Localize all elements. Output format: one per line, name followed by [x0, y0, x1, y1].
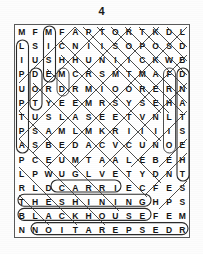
grid-cell[interactable]: R — [42, 82, 55, 96]
grid-cell[interactable]: M — [15, 25, 28, 39]
grid-cell[interactable]: S — [28, 124, 41, 138]
grid-cell[interactable]: A — [149, 68, 162, 82]
grid-cell[interactable]: U — [82, 53, 95, 67]
grid-cell[interactable]: I — [15, 53, 28, 67]
grid-cell[interactable]: S — [162, 39, 175, 53]
grid-cell[interactable]: U — [55, 153, 68, 167]
grid-cell[interactable]: K — [69, 209, 82, 223]
grid-cell[interactable]: H — [55, 53, 68, 67]
grid-cell[interactable]: R — [15, 181, 28, 195]
grid-cell[interactable]: L — [176, 25, 189, 39]
grid-cell[interactable]: E — [136, 209, 149, 223]
grid-cell[interactable]: D — [162, 25, 175, 39]
grid-cell[interactable]: P — [15, 68, 28, 82]
grid-cell[interactable]: A — [42, 124, 55, 138]
grid-cell[interactable]: D — [149, 167, 162, 181]
grid-cell[interactable]: U — [28, 110, 41, 124]
grid-cell[interactable]: T — [15, 110, 28, 124]
grid-cell[interactable]: N — [95, 53, 108, 67]
grid-cell[interactable]: V — [109, 139, 122, 153]
grid-cell[interactable]: A — [15, 139, 28, 153]
grid-cell[interactable]: N — [162, 167, 175, 181]
grid-cell[interactable]: L — [122, 153, 135, 167]
grid-cell[interactable]: Y — [42, 96, 55, 110]
grid-cell[interactable]: R — [69, 82, 82, 96]
grid-cell[interactable]: D — [28, 68, 41, 82]
grid-cell[interactable]: P — [15, 124, 28, 138]
grid-cell[interactable]: L — [162, 110, 175, 124]
grid-cell[interactable]: A — [95, 153, 108, 167]
grid-cell[interactable]: T — [176, 110, 189, 124]
grid-cell[interactable]: T — [69, 224, 82, 238]
grid-cell[interactable]: N — [149, 110, 162, 124]
grid-cell[interactable]: N — [149, 139, 162, 153]
grid-cell[interactable]: F — [55, 25, 68, 39]
grid-cell[interactable]: C — [28, 153, 41, 167]
grid-cell[interactable]: N — [69, 39, 82, 53]
grid-cell[interactable]: F — [149, 181, 162, 195]
grid-cell[interactable]: M — [42, 25, 55, 39]
grid-cell[interactable]: R — [136, 82, 149, 96]
grid-cell[interactable]: I — [55, 224, 68, 238]
grid-cell[interactable]: M — [82, 82, 95, 96]
grid-cell[interactable]: D — [42, 181, 55, 195]
grid-cell[interactable]: H — [82, 209, 95, 223]
grid-cell[interactable]: R — [95, 224, 108, 238]
grid-cell[interactable]: P — [15, 153, 28, 167]
grid-cell[interactable]: T — [28, 96, 41, 110]
grid-cell[interactable]: E — [42, 68, 55, 82]
grid-cell[interactable]: E — [136, 153, 149, 167]
grid-cell[interactable]: A — [176, 96, 189, 110]
grid-cell[interactable]: G — [69, 167, 82, 181]
grid-cell[interactable]: I — [122, 53, 135, 67]
grid-cell[interactable]: N — [95, 195, 108, 209]
grid-cell[interactable]: S — [176, 181, 189, 195]
grid-cell[interactable]: O — [95, 209, 108, 223]
grid-cell[interactable]: E — [122, 181, 135, 195]
grid-cell[interactable]: H — [149, 195, 162, 209]
grid-cell[interactable]: S — [122, 209, 135, 223]
grid-cell[interactable]: M — [82, 96, 95, 110]
grid-cell[interactable]: U — [136, 139, 149, 153]
grid-cell[interactable]: E — [149, 96, 162, 110]
grid-cell[interactable]: E — [42, 153, 55, 167]
grid-cell[interactable]: T — [122, 68, 135, 82]
grid-cell[interactable]: I — [149, 124, 162, 138]
grid-cell[interactable]: T — [95, 25, 108, 39]
grid-cell[interactable]: N — [122, 195, 135, 209]
grid-cell[interactable]: A — [42, 209, 55, 223]
grid-cell[interactable]: S — [176, 124, 189, 138]
grid-cell[interactable]: U — [109, 209, 122, 223]
grid-cell[interactable]: W — [42, 167, 55, 181]
grid-cell[interactable]: T — [122, 110, 135, 124]
grid-cell[interactable]: P — [28, 167, 41, 181]
grid-cell[interactable]: F — [162, 68, 175, 82]
grid-cell[interactable]: B — [176, 53, 189, 67]
grid-cell[interactable]: E — [109, 110, 122, 124]
grid-cell[interactable]: D — [176, 68, 189, 82]
grid-cell[interactable]: V — [136, 110, 149, 124]
grid-cell[interactable]: L — [28, 181, 41, 195]
grid-cell[interactable]: I — [109, 195, 122, 209]
word-search-grid[interactable]: MFMFAPTORTKDLLSICNIISOPOSDIUSHHUNIICKWBP… — [14, 24, 190, 238]
grid-cell[interactable]: R — [82, 68, 95, 82]
grid-cell[interactable]: P — [122, 224, 135, 238]
grid-cell[interactable]: L — [82, 167, 95, 181]
grid-cell[interactable]: T — [176, 167, 189, 181]
grid-cell[interactable]: H — [162, 96, 175, 110]
grid-cell[interactable]: S — [176, 195, 189, 209]
grid-cell[interactable]: D — [176, 39, 189, 53]
grid-cell[interactable]: P — [162, 195, 175, 209]
grid-cell[interactable]: H — [28, 195, 41, 209]
grid-cell[interactable]: P — [82, 25, 95, 39]
grid-cell[interactable]: S — [109, 39, 122, 53]
grid-cell[interactable]: D — [69, 139, 82, 153]
grid-cell[interactable]: E — [149, 82, 162, 96]
grid-cell[interactable]: B — [42, 139, 55, 153]
grid-cell[interactable]: H — [176, 153, 189, 167]
grid-cell[interactable]: R — [162, 82, 175, 96]
grid-cell[interactable]: S — [55, 195, 68, 209]
grid-cell[interactable]: M — [55, 124, 68, 138]
grid-cell[interactable]: L — [15, 167, 28, 181]
grid-cell[interactable]: U — [15, 82, 28, 96]
